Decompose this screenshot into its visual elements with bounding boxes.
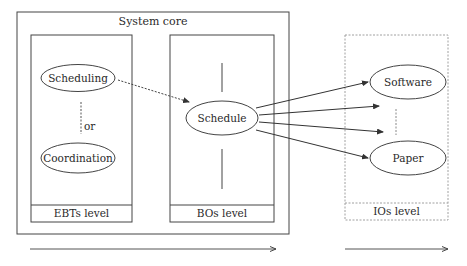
node-paper: Paper (370, 141, 446, 175)
edge-schedule-to-io-3 (259, 122, 383, 132)
edge-schedule-to-paper (256, 130, 368, 158)
system-core-title: System core (119, 15, 188, 28)
node-schedule: Schedule (186, 101, 258, 135)
bos-level-label: BOs level (197, 207, 248, 219)
node-scheduling: Scheduling (41, 65, 115, 92)
edge-schedule-to-io-2 (259, 106, 379, 115)
or-label: or (84, 120, 96, 132)
node-coordination: Coordination (41, 143, 115, 173)
ebts-level-label: EBTs level (54, 207, 110, 219)
edge-scheduling-to-schedule (118, 80, 189, 102)
svg-text:Software: Software (384, 76, 432, 88)
svg-text:Schedule: Schedule (197, 112, 246, 124)
ios-level-label: IOs level (373, 205, 420, 217)
architecture-diagram: System core EBTs level BOs level IOs lev… (0, 0, 467, 266)
svg-text:Paper: Paper (393, 152, 425, 164)
svg-text:Scheduling: Scheduling (48, 72, 108, 84)
svg-text:Coordination: Coordination (43, 152, 113, 164)
edge-schedule-to-software (256, 82, 368, 108)
node-software: Software (370, 65, 446, 99)
